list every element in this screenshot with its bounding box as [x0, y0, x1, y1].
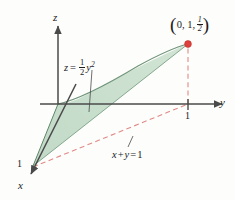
coordinate-xy: 0, 1, [176, 20, 195, 31]
y-axis-tick-label-1: 1 [185, 111, 190, 121]
plane-equation-rhs: 1 [137, 149, 142, 160]
x-axis-tick-label-1: 1 [17, 159, 22, 169]
surface-integral-diagram: z y x 1 1 z=12y2 x+y=1 (0, 1,12) [0, 0, 235, 200]
plane-equation-y: y [125, 149, 130, 160]
leader-line-plane-equation [128, 136, 133, 147]
surface-equation-label: z=12y2 [64, 58, 95, 77]
plane-equation-x: x [112, 149, 117, 160]
surface-equation-exponent: 2 [91, 60, 95, 69]
surface-equation-z: z [64, 62, 68, 73]
shaded-surface [33, 44, 188, 166]
x-axis-label: x [18, 180, 23, 191]
coefficient-numerator: 1 [79, 58, 85, 67]
point-coordinate-label: (0, 1,12) [170, 16, 209, 34]
surface-equation-coefficient: 12 [79, 58, 85, 77]
y-axis-label: y [220, 97, 225, 108]
right-paren: ) [203, 17, 209, 33]
coefficient-denominator: 2 [79, 67, 85, 77]
plane-equation-equals: = [130, 149, 136, 160]
z-axis-label: z [53, 12, 57, 23]
point-marker-0-1-half [185, 41, 192, 48]
plane-equation-label: x+y=1 [112, 150, 142, 161]
dashed-construction-lines [33, 47, 188, 167]
plane-equation-plus: + [118, 149, 124, 160]
surface-equation-equals: = [70, 62, 76, 73]
